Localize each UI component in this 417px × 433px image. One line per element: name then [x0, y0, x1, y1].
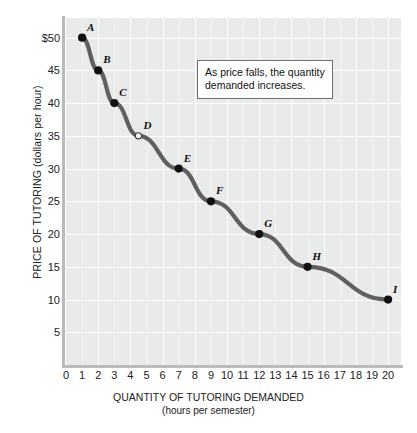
annotation-line-1: As price falls, the quantity — [205, 66, 325, 79]
data-point-label-B: B — [103, 53, 110, 65]
y-axis-tick-label: 40 — [24, 98, 60, 108]
data-point-label-C: C — [119, 86, 126, 98]
y-axis-tick-label: 35 — [24, 131, 60, 141]
x-axis-title: QUANTITY OF TUTORING DEMANDED (hours per… — [0, 391, 417, 417]
data-point-label-I: I — [393, 283, 397, 295]
data-point-label-A: A — [87, 21, 94, 33]
x-axis-title-sub: (hours per semester) — [0, 404, 417, 417]
x-axis-line — [62, 365, 403, 368]
data-point-G — [255, 230, 263, 238]
x-axis-title-main: QUANTITY OF TUTORING DEMANDED — [0, 391, 417, 404]
data-point-H — [303, 263, 311, 271]
data-point-F — [207, 197, 215, 205]
data-point-E — [175, 164, 183, 172]
y-axis-tick-label: $50 — [24, 33, 60, 43]
data-point-label-E: E — [184, 152, 191, 164]
y-axis-tick-label: 20 — [24, 229, 60, 239]
annotation-line-2: demanded increases. — [205, 79, 325, 92]
data-point-label-H: H — [313, 250, 322, 262]
data-point-label-F: F — [216, 184, 223, 196]
data-point-label-G: G — [264, 217, 272, 229]
data-point-label-D: D — [143, 119, 151, 131]
data-point-A — [78, 34, 86, 42]
data-point-C — [110, 99, 118, 107]
x-axis-tick-labels: 01234567891011121314151617181920 — [0, 369, 417, 385]
demand-curve-chart: PRICE OF TUTORING (dollars per hour) $50… — [0, 0, 417, 433]
data-point-D — [135, 133, 141, 139]
data-point-B — [94, 66, 102, 74]
y-axis-tick-label: 30 — [24, 164, 60, 174]
y-axis-tick-label: 25 — [24, 196, 60, 206]
y-axis-tick-label: 15 — [24, 262, 60, 272]
y-axis-tick-label: 5 — [24, 327, 60, 337]
y-axis-tick-label: 10 — [24, 295, 60, 305]
y-axis-line — [62, 16, 65, 367]
y-axis-tick-label: 45 — [24, 65, 60, 75]
x-axis-tick-label: 20 — [377, 369, 399, 381]
data-point-I — [384, 295, 392, 303]
annotation-callout: As price falls, the quantity demanded in… — [197, 60, 333, 99]
